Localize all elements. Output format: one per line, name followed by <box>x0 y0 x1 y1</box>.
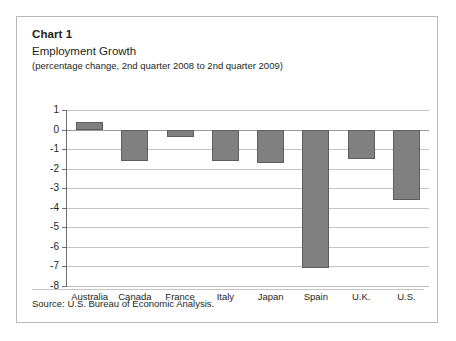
gridline <box>67 169 429 170</box>
y-axis-tick <box>62 149 66 150</box>
y-axis-tick <box>62 188 66 189</box>
y-axis-tick-label: -6 <box>31 242 59 252</box>
gridline <box>67 188 429 189</box>
y-axis-tick <box>62 247 66 248</box>
bar <box>348 130 375 159</box>
y-axis-tick-label: -7 <box>31 261 59 271</box>
y-axis-tick <box>62 130 66 131</box>
y-axis-tick-label: -4 <box>31 203 59 213</box>
x-axis-tick-label: U.K. <box>339 291 384 303</box>
bar <box>393 130 420 200</box>
y-axis-tick <box>62 286 66 287</box>
gridline <box>67 247 429 248</box>
x-axis-tick-label: Spain <box>293 291 338 303</box>
y-axis-tick <box>62 169 66 170</box>
y-axis-tick-label: 0 <box>31 125 59 135</box>
plot-area <box>67 110 429 286</box>
y-axis-tick <box>62 266 66 267</box>
chart-subtitle: (percentage change, 2nd quarter 2008 to … <box>32 59 424 73</box>
bar <box>76 122 103 130</box>
y-axis-tick-label: -2 <box>31 164 59 174</box>
bar <box>121 130 148 161</box>
bar <box>212 130 239 161</box>
x-axis-tick-label: U.S. <box>384 291 429 303</box>
gridline <box>67 208 429 209</box>
x-axis-tick-label: Japan <box>248 291 293 303</box>
y-axis-tick-label: -1 <box>31 144 59 154</box>
y-axis-tick <box>62 110 66 111</box>
chart-plot: 10-1-2-3-4-5-6-7-8 AustraliaCanadaFrance… <box>17 95 437 300</box>
y-axis-tick-label: 1 <box>31 105 59 115</box>
gridline <box>67 286 429 287</box>
source-note: Source: U.S. Bureau of Economic Analysis… <box>32 297 214 310</box>
bar <box>167 130 194 138</box>
chart-header: Chart 1 Employment Growth (percentage ch… <box>32 27 424 73</box>
chart-panel: Chart 1 Employment Growth (percentage ch… <box>16 16 438 323</box>
chart-number: Chart 1 <box>32 27 424 42</box>
bar <box>257 130 284 163</box>
y-axis-tick-label: -3 <box>31 183 59 193</box>
gridline <box>67 266 429 267</box>
source-divider <box>32 289 424 290</box>
y-axis-labels: 10-1-2-3-4-5-6-7-8 <box>25 110 59 286</box>
y-axis-tick <box>62 227 66 228</box>
y-axis-tick <box>62 208 66 209</box>
chart-title: Employment Growth <box>32 43 424 59</box>
y-axis-tick-label: -5 <box>31 222 59 232</box>
gridline <box>67 227 429 228</box>
gridline <box>67 110 429 111</box>
bar <box>302 130 329 269</box>
